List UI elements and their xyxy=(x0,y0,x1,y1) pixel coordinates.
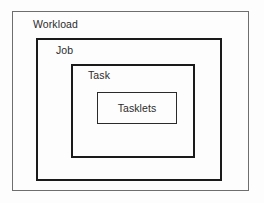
label-tasklets: Tasklets xyxy=(97,92,177,124)
label-job: Job xyxy=(56,44,73,56)
label-task: Task xyxy=(88,69,110,81)
label-workload: Workload xyxy=(33,18,78,30)
diagram-canvas: Workload Job Task Tasklets xyxy=(0,0,264,203)
